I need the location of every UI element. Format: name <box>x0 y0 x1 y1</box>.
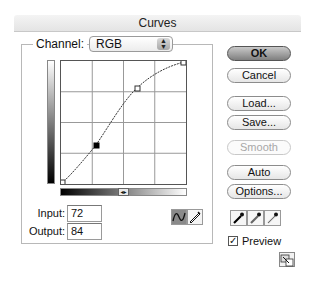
channel-select-value: RGB <box>96 37 122 51</box>
pencil-tool-button[interactable] <box>187 209 203 225</box>
channel-label: Channel: <box>33 37 87 51</box>
output-label: Output: <box>21 225 65 237</box>
auto-button[interactable]: Auto <box>227 165 291 180</box>
ok-button[interactable]: OK <box>227 46 291 61</box>
curve-tool-button[interactable] <box>171 209 187 225</box>
preview-checkbox[interactable]: ✓ <box>228 236 238 246</box>
output-field[interactable]: 84 <box>67 223 102 240</box>
load-button[interactable]: Load... <box>227 96 291 111</box>
window-title-bar: Curves <box>14 15 301 32</box>
smooth-button: Smooth <box>227 140 291 155</box>
curve-point-end <box>181 61 186 65</box>
input-label: Input: <box>21 207 65 219</box>
gray-point-eyedropper[interactable] <box>247 210 264 226</box>
expand-dialog-button[interactable] <box>279 252 295 267</box>
output-gradient-bar <box>47 60 55 184</box>
curves-graph[interactable] <box>60 60 187 185</box>
black-point-eyedropper[interactable] <box>230 210 247 226</box>
pencil-icon <box>188 210 202 224</box>
select-stepper-icon: ▲▼ <box>157 38 170 50</box>
eyedropper-icon <box>265 211 280 225</box>
curve-icon <box>172 210 186 224</box>
options-button[interactable]: Options... <box>227 184 291 199</box>
curve-point-selected <box>94 143 99 148</box>
save-button[interactable]: Save... <box>227 115 291 130</box>
curve-point-upper <box>135 86 140 91</box>
cancel-button[interactable]: Cancel <box>227 68 291 83</box>
input-gradient-bar: ◂▸ <box>60 188 187 196</box>
channel-select[interactable]: RGB ▲▼ <box>89 36 173 52</box>
eyedropper-icon <box>231 211 246 225</box>
eyedropper-icon <box>248 211 263 225</box>
curves-graph-canvas <box>61 61 186 184</box>
white-point-eyedropper[interactable] <box>264 210 281 226</box>
input-field[interactable]: 72 <box>67 205 102 222</box>
curve-point-start <box>61 180 65 184</box>
preview-label: Preview <box>242 235 281 247</box>
window-title: Curves <box>138 16 176 30</box>
gradient-toggle-button[interactable]: ◂▸ <box>118 188 129 196</box>
expand-icon <box>280 254 294 267</box>
